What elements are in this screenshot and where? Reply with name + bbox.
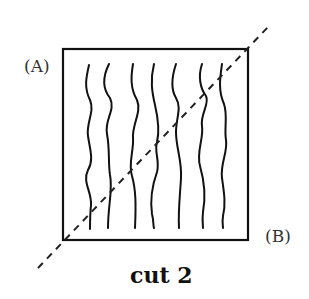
fiber-7 bbox=[220, 64, 226, 228]
fiber-1 bbox=[86, 65, 91, 229]
fiber-3 bbox=[131, 64, 139, 228]
fiber-2 bbox=[104, 64, 111, 228]
diagram-caption: cut 2 bbox=[130, 262, 193, 288]
fiber-5 bbox=[172, 64, 181, 228]
wavy-fibers bbox=[86, 64, 226, 229]
label-b: (B) bbox=[265, 226, 291, 246]
diagram-canvas: (A) (B) cut 2 bbox=[0, 0, 309, 299]
label-a: (A) bbox=[24, 56, 50, 76]
cut-line bbox=[38, 27, 268, 268]
fiber-4 bbox=[151, 64, 158, 228]
fiber-6 bbox=[199, 64, 207, 228]
